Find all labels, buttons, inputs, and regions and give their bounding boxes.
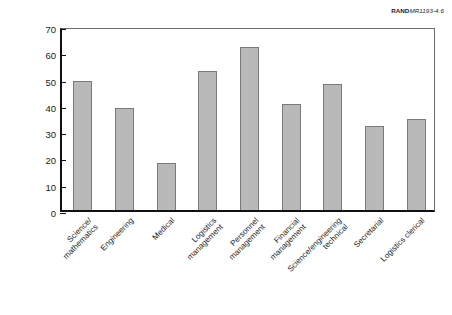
x-axis-label: Secretarial xyxy=(351,216,385,250)
x-axis-label-line: Personnel xyxy=(220,216,260,256)
x-axis-label: Engineering xyxy=(98,216,135,253)
y-axis-tick-mark xyxy=(60,160,66,161)
x-axis-label-line: Financial xyxy=(262,216,302,256)
x-axis-label-line: Secretarial xyxy=(351,216,385,250)
bar xyxy=(73,81,92,210)
x-axis-label-line: Science/engineering xyxy=(286,216,344,274)
bar xyxy=(323,84,342,210)
rand-document-id: MR1193-4.6 xyxy=(409,7,444,14)
y-axis-tick-mark xyxy=(60,55,66,56)
x-axis-label-line: management xyxy=(227,223,267,263)
y-axis-tick-label: 20 xyxy=(45,155,56,166)
bar-chart-figure: RANDMR1193-4.6 Increase (percent) 010203… xyxy=(0,0,452,315)
bar xyxy=(157,163,176,210)
y-axis-tick-label: 40 xyxy=(45,102,56,113)
y-axis-tick-label: 30 xyxy=(45,129,56,140)
bar xyxy=(282,104,301,210)
y-axis-tick-mark xyxy=(60,82,66,83)
rand-brand-label: RAND xyxy=(391,7,409,14)
x-axis-label-line: Medical xyxy=(151,216,177,242)
bar xyxy=(115,108,134,211)
y-axis-tick-label: 70 xyxy=(45,24,56,35)
y-axis-tick-mark xyxy=(60,213,66,214)
bar xyxy=(407,119,426,210)
y-axis-tick-mark xyxy=(60,134,66,135)
x-axis-label: Logisticsmanagement xyxy=(179,216,225,262)
x-axis-label: Financialmanagement xyxy=(262,216,308,262)
x-axis-label: Science/mathematics xyxy=(55,216,100,261)
bar xyxy=(240,47,259,210)
bar xyxy=(198,71,217,210)
y-axis-tick-label: 10 xyxy=(45,181,56,192)
y-axis-tick-label: 50 xyxy=(45,76,56,87)
y-axis-tick-label: 0 xyxy=(51,208,56,219)
x-axis-label: Medical xyxy=(151,216,177,242)
x-axis-label: Personnelmanagement xyxy=(220,216,266,262)
y-axis-tick-label: 60 xyxy=(45,50,56,61)
y-axis-tick-mark xyxy=(60,187,66,188)
plot-area: Increase (percent) 010203040506070 xyxy=(60,28,435,212)
x-axis-label-line: Logistics clerical xyxy=(379,216,427,264)
x-axis-label-line: management xyxy=(269,223,309,263)
x-axis-label-line: mathematics xyxy=(61,223,100,262)
x-axis-label-line: Logistics xyxy=(179,216,219,256)
x-axis-label-line: management xyxy=(185,223,225,263)
y-axis-tick-mark xyxy=(60,108,66,109)
x-axis-label: Science/engineeringtechnical xyxy=(286,216,351,281)
x-axis-label-line: technical xyxy=(292,223,350,281)
x-axis-label-line: Science/ xyxy=(55,216,94,255)
y-axis-tick-mark xyxy=(60,29,66,30)
x-axis-label-line: Engineering xyxy=(98,216,135,253)
x-axis-label: Logistics clerical xyxy=(379,216,427,264)
bar xyxy=(365,126,384,210)
rand-source-credit: RANDMR1193-4.6 xyxy=(391,7,444,14)
